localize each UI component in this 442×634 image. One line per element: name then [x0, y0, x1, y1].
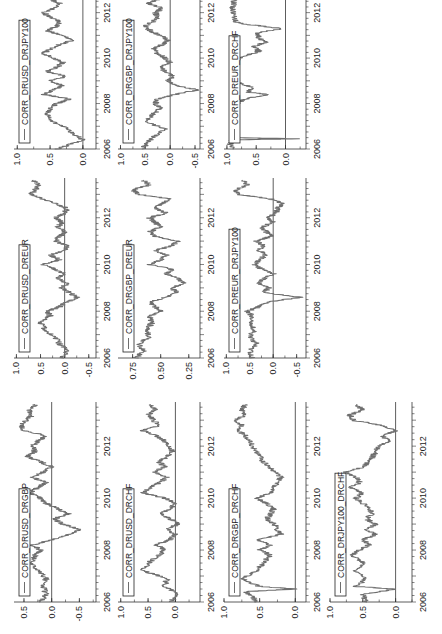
y-tick-label: 1.0 — [221, 362, 231, 375]
y-tick-label: 0.0 — [268, 362, 278, 375]
series-line — [130, 0, 198, 149]
x-tick-label: 2008 — [102, 301, 112, 321]
x-tick-label: 2008 — [102, 540, 112, 560]
x-tick-label: 2012 — [102, 208, 112, 228]
chart-panel-corr-drgbp-dreur: 0.750.500.252006200820102012CORR_DRGBP_D… — [118, 178, 220, 358]
x-tick-label: 2010 — [206, 488, 216, 508]
y-tick-label: 0.0 — [290, 606, 300, 619]
x-tick-label: 2006 — [206, 139, 216, 159]
y-tick-label: 1.0 — [115, 153, 125, 166]
legend-label: CORR_DRUSD_DRJPY100 — [20, 18, 30, 125]
y-tick-label: 0.0 — [170, 606, 180, 619]
y-tick-label: 1.0 — [11, 362, 21, 375]
y-tick-label: 0.5 — [358, 606, 368, 619]
x-tick-label: 2010 — [418, 488, 428, 508]
series-line — [29, 180, 80, 358]
y-tick-label: 1.0 — [12, 153, 22, 166]
x-tick-label: 2010 — [206, 48, 216, 68]
legend-label: CORR_DRGBP_DREUR — [124, 239, 134, 334]
x-tick-label: 2012 — [206, 208, 216, 228]
legend-label: CORR_DREUR_DRCHF — [230, 31, 240, 125]
y-tick-label: 0.0 — [391, 606, 401, 619]
x-tick-label: 2012 — [102, 3, 112, 23]
x-tick-label: 2012 — [102, 436, 112, 456]
y-tick-label: 0.0 — [165, 153, 175, 166]
chart-panel-corr-drusd-drjpy100: 1.00.50.02006200820102012CORR_DRUSD_DRJP… — [14, 0, 116, 149]
chart-panel-corr-drusd-drchf: 1.00.50.02006200820102012CORR_DRUSD_DRCH… — [118, 402, 220, 602]
x-tick-label: 2012 — [312, 3, 322, 23]
y-tick-label: 0.0 — [47, 606, 57, 619]
x-tick-label: 2012 — [312, 208, 322, 228]
x-tick-label: 2008 — [102, 94, 112, 114]
y-tick-label: 0.5 — [140, 153, 150, 166]
x-tick-label: 2006 — [418, 592, 428, 612]
x-tick-label: 2012 — [312, 436, 322, 456]
y-tick-label: -0.5 — [292, 362, 302, 378]
chart-panel-corr-drusd-drgbp: 0.50.0-0.52006200820102012CORR_DRUSD_DRG… — [14, 402, 116, 602]
x-tick-label: 2006 — [102, 592, 112, 612]
series-line — [234, 405, 296, 602]
y-tick-label: 0.5 — [45, 153, 55, 166]
legend-label: CORR_DRGBP_DRCHF — [230, 484, 240, 578]
y-tick-label: 0.5 — [251, 153, 261, 166]
series-line — [234, 180, 303, 358]
y-tick-label: 0.5 — [36, 362, 46, 375]
y-tick-label: 0.0 — [60, 362, 70, 375]
x-tick-label: 2006 — [312, 348, 322, 368]
chart-panel-corr-drusd-dreur: 1.00.50.0-0.52006200820102012CORR_DRUSD_… — [14, 178, 116, 358]
x-tick-label: 2010 — [206, 254, 216, 274]
x-tick-label: 2010 — [102, 48, 112, 68]
legend-label: CORR_DREUR_DRJPY100 — [230, 227, 240, 334]
y-tick-label: -0.5 — [190, 153, 200, 169]
y-tick-label: 0.5 — [143, 606, 153, 619]
x-tick-label: 2008 — [206, 301, 216, 321]
x-tick-label: 2008 — [312, 540, 322, 560]
x-tick-label: 2008 — [206, 94, 216, 114]
x-tick-label: 2008 — [312, 94, 322, 114]
y-tick-label: 0.5 — [255, 606, 265, 619]
chart-panel-corr-drjpy100-drchf: 1.00.50.02006200820102012CORR_DRJPY100_D… — [330, 402, 432, 602]
x-tick-label: 2006 — [102, 139, 112, 159]
y-tick-label: 1.0 — [222, 153, 232, 166]
x-tick-label: 2008 — [312, 301, 322, 321]
y-tick-label: 0.0 — [78, 153, 88, 166]
x-tick-label: 2008 — [206, 540, 216, 560]
legend-label: CORR_DRUSD_DRGBP — [20, 483, 30, 578]
x-tick-label: 2006 — [312, 592, 322, 612]
x-tick-label: 2010 — [102, 488, 112, 508]
x-tick-label: 2010 — [312, 254, 322, 274]
legend-label: CORR_DRJPY100_DRCHF — [336, 472, 346, 578]
y-tick-label: -0.5 — [74, 606, 84, 622]
y-tick-label: 1.0 — [325, 606, 335, 619]
x-tick-label: 2006 — [312, 139, 322, 159]
x-tick-label: 2006 — [102, 348, 112, 368]
y-tick-label: 0.25 — [184, 362, 194, 380]
rotated-figure: 0.50.0-0.52006200820102012CORR_DRUSD_DRG… — [0, 0, 442, 634]
x-tick-label: 2012 — [206, 3, 216, 23]
y-tick-label: 0.50 — [156, 362, 166, 380]
x-tick-label: 2006 — [206, 348, 216, 368]
y-tick-label: 0.0 — [281, 153, 291, 166]
y-tick-label: 1.0 — [219, 606, 229, 619]
series-line — [343, 405, 397, 602]
legend-label: CORR_DRUSD_DREUR — [20, 239, 30, 334]
x-tick-label: 2008 — [418, 540, 428, 560]
x-tick-label: 2010 — [312, 48, 322, 68]
legend-label: CORR_DRGBP_DRJPY100 — [124, 18, 134, 125]
x-tick-label: 2010 — [312, 488, 322, 508]
y-tick-label: 0.5 — [19, 606, 29, 619]
x-tick-label: 2006 — [206, 592, 216, 612]
series-line — [36, 0, 85, 149]
y-tick-label: 1.0 — [116, 606, 126, 619]
chart-panel-corr-drgbp-drchf: 1.00.50.02006200820102012CORR_DRGBP_DRCH… — [224, 402, 326, 602]
chart-panel-corr-dreur-drchf: 1.00.50.02006200820102012CORR_DREUR_DRCH… — [224, 0, 326, 149]
x-tick-label: 2012 — [418, 436, 428, 456]
chart-panel-corr-dreur-drjpy100: 1.00.50.0-0.52006200820102012CORR_DREUR_… — [224, 178, 326, 358]
legend-label: CORR_DRUSD_DRCHF — [124, 484, 134, 578]
series-line — [140, 405, 179, 602]
y-tick-label: -0.5 — [84, 362, 94, 378]
y-tick-label: 0.75 — [128, 362, 138, 380]
chart-panel-corr-drgbp-drjpy100: 1.00.50.0-0.52006200820102012CORR_DRGBP_… — [118, 0, 220, 149]
series-line — [131, 180, 185, 358]
x-tick-label: 2012 — [206, 436, 216, 456]
